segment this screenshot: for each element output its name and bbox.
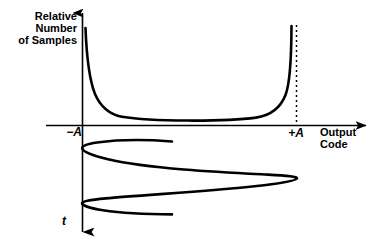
minus-a-tick-label: −A — [52, 126, 82, 138]
plus-a-tick-label: +A — [281, 127, 311, 139]
y-axis-label: Relative Number of Samples — [0, 10, 77, 46]
time-axis-label: t — [55, 215, 73, 227]
input-sine-waveform — [82, 140, 297, 214]
adc-sine-histogram-figure: Relative Number of Samples Output Code −… — [0, 0, 386, 251]
sample-density-curve — [86, 26, 292, 121]
x-axis-label: Output Code — [320, 126, 382, 150]
